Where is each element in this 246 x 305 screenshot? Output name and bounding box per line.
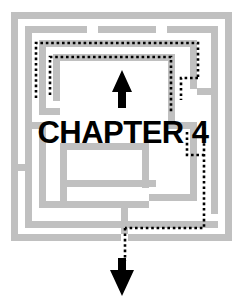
page-title: CHAPTER 4 [0, 116, 246, 150]
wall-right-notch-b [197, 88, 218, 95]
wall-inner-left-foot [39, 201, 149, 208]
wall-inner-mid-col [60, 143, 67, 208]
wall-ring4-left [53, 54, 60, 101]
wall-ring2-top-c [167, 26, 218, 33]
wall-ring2-top-b [98, 26, 156, 33]
wall-inner-mid-foot [60, 180, 156, 187]
wall-left-notch-low [11, 164, 32, 171]
wall-ring3-right [190, 40, 197, 89]
wall-right-inner-foot [149, 194, 197, 201]
wall-outer-border-bottom-right [128, 234, 232, 241]
chapter-opener-figure: CHAPTER 4 [0, 0, 246, 305]
wall-ring4-top [53, 54, 175, 61]
wall-stub-upper-left-foot [39, 108, 60, 115]
wall-outer-border-top [11, 12, 232, 19]
maze-illustration [0, 0, 246, 305]
wall-ring2-top-a [25, 26, 87, 33]
wall-ring3-left [39, 40, 46, 115]
wall-outer-border-bottom-left [11, 234, 121, 241]
